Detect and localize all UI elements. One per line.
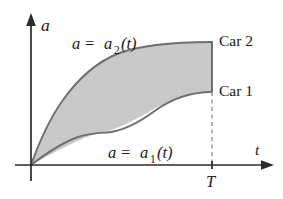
label-a1-func: a: [140, 143, 148, 162]
label-a1-subscript: 1: [150, 153, 156, 165]
x-axis-arrowhead-icon: [261, 160, 274, 169]
x-tick-label-T: T: [206, 172, 217, 191]
label-a2-equals: =: [85, 34, 94, 53]
label-equation-a2: a = a 2 (t): [72, 34, 137, 56]
y-axis-arrowhead-icon: [26, 13, 36, 26]
label-a2-func: a: [104, 34, 112, 53]
label-equation-a1: a = a 1 (t): [108, 143, 173, 165]
legend-label-car-1: Car 1: [219, 82, 253, 99]
label-a1-var: a: [108, 143, 116, 162]
label-a1-arg: (t): [157, 143, 173, 162]
acceleration-time-diagram: a t T a = a 2 (t) a = a 1 (t) Car 2 Car …: [0, 0, 283, 199]
label-a2-subscript: 2: [114, 44, 120, 56]
label-a2-var: a: [72, 34, 80, 53]
label-a1-equals: =: [121, 143, 130, 162]
y-axis-label: a: [41, 15, 50, 35]
legend-label-car-2: Car 2: [219, 32, 253, 49]
x-axis-label: t: [255, 141, 260, 158]
label-a2-arg: (t): [121, 34, 137, 53]
